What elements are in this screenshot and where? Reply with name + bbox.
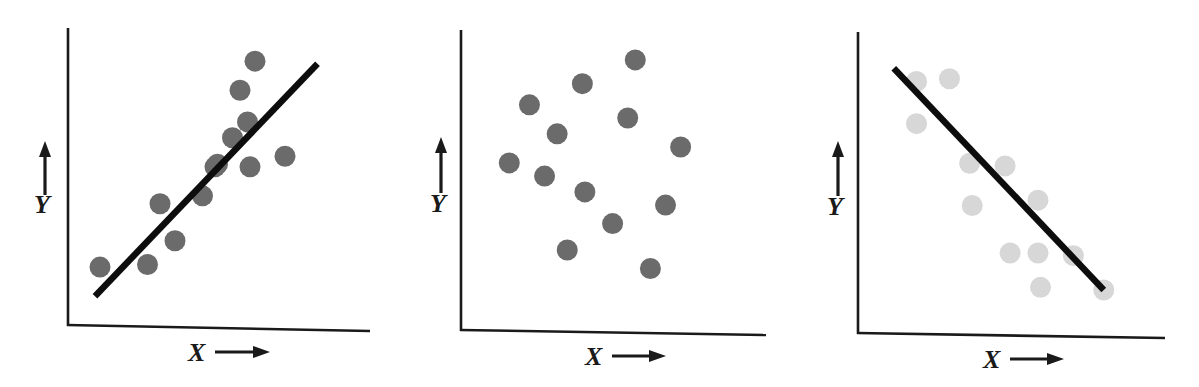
data-point: [150, 193, 171, 214]
data-point: [617, 108, 638, 129]
data-point: [534, 166, 555, 187]
data-point: [230, 80, 251, 101]
x-axis-line: [460, 330, 766, 335]
y-axis-arrow-icon: [832, 141, 844, 196]
x-axis-line: [857, 333, 1165, 338]
data-point: [1030, 277, 1051, 298]
data-point: [1027, 243, 1048, 264]
data-point: [655, 195, 676, 216]
data-point: [602, 213, 623, 234]
data-point: [137, 254, 158, 275]
panel-negative-correlation: Y X: [800, 0, 1199, 387]
data-point: [995, 155, 1016, 176]
panel-no-correlation: Y X: [400, 0, 800, 387]
x-axis-arrow-icon: [612, 350, 666, 362]
y-axis-arrow-icon: [435, 137, 447, 193]
data-series-none: [499, 49, 691, 279]
data-point: [547, 123, 568, 144]
data-point: [939, 68, 960, 89]
y-axis-label: Y: [34, 190, 52, 219]
trend-line: [894, 68, 1104, 290]
data-point: [574, 181, 595, 202]
data-point: [640, 258, 661, 279]
data-point: [240, 156, 261, 177]
x-axis-label: X: [982, 345, 1001, 374]
data-point: [625, 49, 646, 70]
axes-group-0: [67, 28, 370, 331]
scatter-plot-positive: Y X: [0, 0, 400, 387]
trend-line-positive: [95, 64, 318, 296]
scatter-plot-negative: Y X: [800, 0, 1199, 387]
y-axis-arrow-icon: [39, 141, 51, 195]
panel-positive-correlation: Y X: [0, 0, 400, 387]
correlation-scatter-figure: Y X Y X: [0, 0, 1199, 387]
data-point: [245, 51, 266, 72]
data-point: [1027, 190, 1048, 211]
y-axis-label: Y: [827, 192, 845, 221]
data-point: [557, 240, 578, 261]
x-axis-label: X: [584, 342, 603, 371]
x-axis-label: X: [187, 338, 206, 367]
x-axis-line: [67, 325, 370, 331]
x-axis-arrow-icon: [1010, 353, 1064, 365]
data-point: [275, 146, 296, 167]
trend-line-negative: [894, 68, 1104, 290]
data-point: [1000, 243, 1021, 264]
data-point: [519, 94, 540, 115]
data-point: [499, 152, 520, 173]
axes-group-1: [460, 30, 766, 335]
trend-line: [95, 64, 318, 296]
data-series-positive: [90, 51, 296, 278]
x-axis-arrow-icon: [215, 346, 270, 358]
y-axis-label: Y: [430, 189, 448, 218]
data-point: [572, 73, 593, 94]
data-point: [962, 195, 983, 216]
data-point: [90, 257, 111, 278]
data-point: [670, 137, 691, 158]
data-point: [906, 113, 927, 134]
data-point: [165, 230, 186, 251]
scatter-plot-none: Y X: [400, 0, 800, 387]
